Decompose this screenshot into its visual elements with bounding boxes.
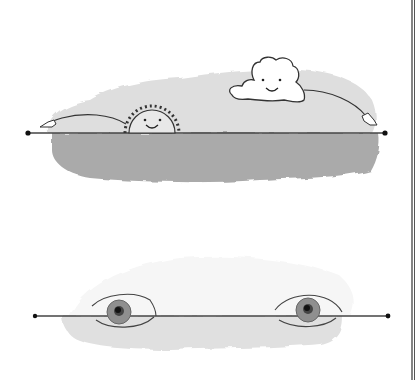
top-panel [25,57,387,182]
faint-wash-bottom [62,316,342,350]
line-endpoint-dot [382,130,387,135]
sky-wash [48,69,376,133]
pointing-hand-left-icon [40,120,56,127]
illustration-canvas: Two hand-drawn horizon-line panels [0,0,419,380]
ground-wash [52,133,379,182]
line-endpoint-dot [386,314,391,319]
bottom-panel [33,257,391,350]
line-endpoint-dot [33,314,37,318]
line-endpoint-dot [25,130,30,135]
